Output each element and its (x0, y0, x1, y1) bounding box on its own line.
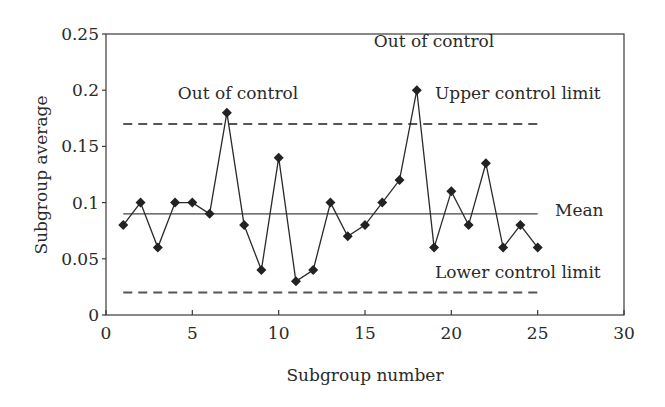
x-tick-label: 25 (527, 323, 549, 343)
data-point-marker (291, 276, 301, 286)
data-point-marker (429, 243, 439, 253)
data-series (118, 85, 542, 286)
x-tick-label: 20 (441, 323, 463, 343)
data-point-marker (274, 153, 284, 163)
annotation-out-of-control-1: Out of control (178, 83, 298, 103)
y-axis-label: Subgroup average (31, 96, 51, 255)
data-point-marker (515, 220, 525, 230)
data-point-marker (343, 231, 353, 241)
data-point-marker (308, 265, 318, 275)
y-tick-label: 0.25 (61, 24, 99, 44)
label-lower-control-limit: Lower control limit (435, 262, 601, 282)
y-tick-label: 0.2 (72, 80, 99, 100)
data-point-marker (446, 186, 456, 196)
y-tick-label: 0 (88, 305, 99, 325)
label-upper-control-limit: Upper control limit (435, 83, 601, 103)
x-tick-label: 15 (354, 323, 376, 343)
data-point-marker (412, 85, 422, 95)
label-mean: Mean (555, 200, 604, 220)
axis-ticks: 05101520253000.050.10.150.20.25 (61, 24, 635, 343)
data-point-marker (256, 265, 266, 275)
y-tick-label: 0.15 (61, 136, 99, 156)
data-point-marker (187, 198, 197, 208)
y-tick-label: 0.1 (72, 193, 99, 213)
data-point-marker (481, 158, 491, 168)
data-point-marker (464, 220, 474, 230)
data-point-marker (239, 220, 249, 230)
annotation-out-of-control-2: Out of control (374, 31, 494, 51)
y-tick-label: 0.05 (61, 249, 99, 269)
data-point-marker (325, 198, 335, 208)
data-point-marker (153, 243, 163, 253)
control-chart: 05101520253000.050.10.150.20.25 Out of c… (0, 0, 665, 407)
x-tick-label: 30 (613, 323, 635, 343)
series-line (123, 90, 537, 281)
x-tick-label: 5 (187, 323, 198, 343)
x-axis-label: Subgroup number (286, 365, 444, 385)
x-tick-label: 10 (268, 323, 290, 343)
data-point-marker (170, 198, 180, 208)
data-point-marker (222, 108, 232, 118)
x-tick-label: 0 (101, 323, 112, 343)
data-point-marker (205, 209, 215, 219)
